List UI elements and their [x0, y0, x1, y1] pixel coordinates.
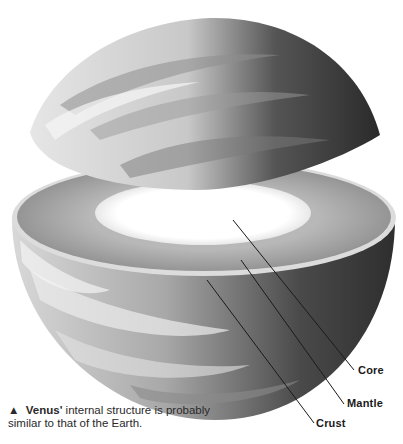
figure-caption: ▲ Venus' internal structure is probably … [8, 404, 218, 430]
core-label: Core [358, 364, 384, 376]
caption-subject: Venus' [26, 404, 63, 416]
mantle-label: Mantle [347, 397, 383, 409]
venus-cutaway-diagram [0, 0, 403, 444]
core-layer [95, 181, 311, 245]
crust-label: Crust [316, 417, 346, 429]
upper-hemisphere [30, 18, 380, 190]
caption-marker-icon: ▲ [8, 404, 19, 416]
